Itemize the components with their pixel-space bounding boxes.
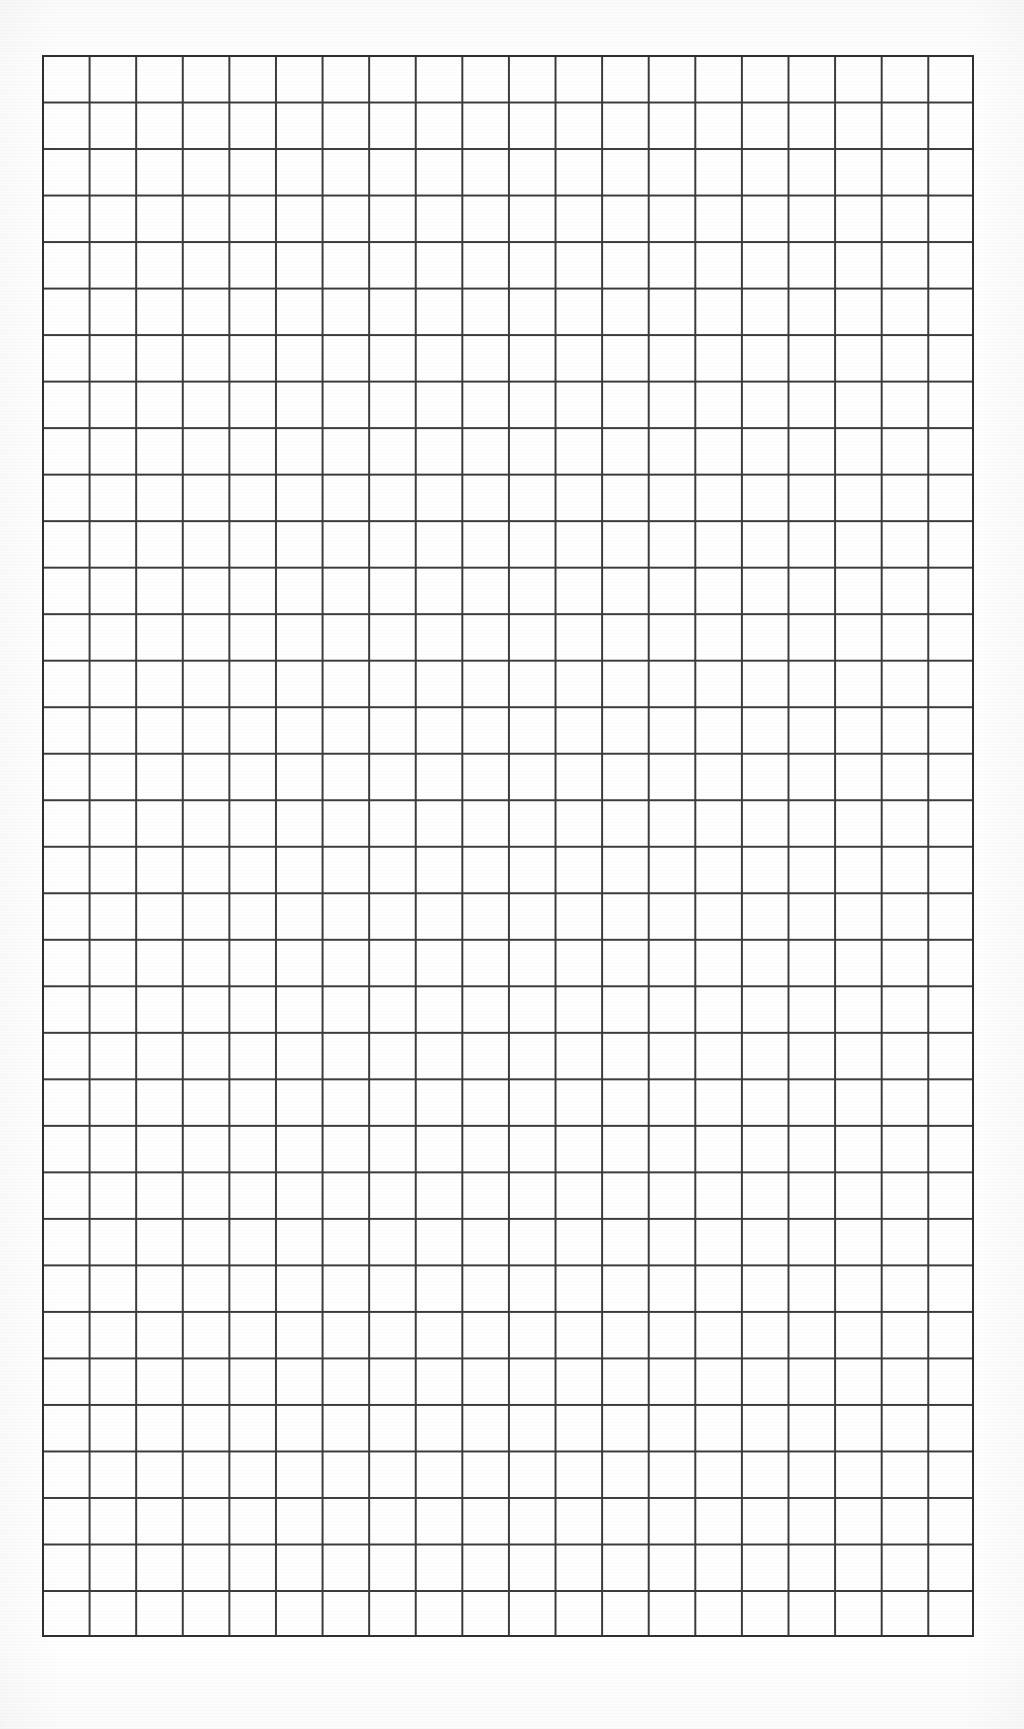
page-surface (0, 0, 1024, 1729)
grid-bottom-rule (42, 1635, 974, 1637)
grid-paper-block[interactable] (42, 55, 974, 1637)
grid-right-rule (972, 55, 974, 1637)
